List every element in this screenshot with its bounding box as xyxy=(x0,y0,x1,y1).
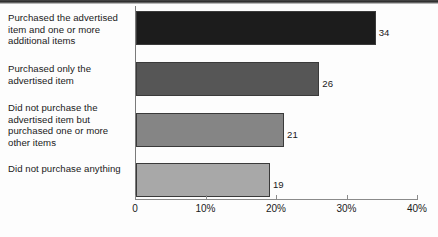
category-label: Purchased the advertised item and one or… xyxy=(8,12,132,47)
x-axis-tick xyxy=(276,195,277,200)
bar xyxy=(136,113,284,147)
bar xyxy=(136,11,376,45)
plot-area: 34 26 21 19 010%20%30%40% xyxy=(135,6,425,200)
x-axis-tick xyxy=(347,195,348,200)
bar-value-label: 26 xyxy=(322,78,333,89)
bar-value-label: 19 xyxy=(273,179,284,190)
bar-value-label: 21 xyxy=(287,129,298,140)
x-axis-tick xyxy=(206,195,207,200)
x-axis-tick-label: 30% xyxy=(336,203,356,214)
category-label: Did not purchase anything xyxy=(8,163,132,175)
x-axis-tick-label: 20% xyxy=(266,203,286,214)
x-axis-tick-label: 40% xyxy=(407,203,427,214)
category-label: Did not purchase the advertised item but… xyxy=(8,102,132,148)
bar xyxy=(136,163,270,197)
category-label-column: Purchased the advertised item and one or… xyxy=(0,4,133,202)
x-axis-tick xyxy=(417,195,418,200)
x-axis-tick xyxy=(135,195,136,200)
bar xyxy=(136,62,319,96)
x-axis-tick-label: 10% xyxy=(195,203,215,214)
horizontal-bar-chart: Purchased the advertised item and one or… xyxy=(0,0,438,237)
x-axis-tick-label: 0 xyxy=(132,203,138,214)
category-label: Purchased only the advertised item xyxy=(8,63,132,86)
bar-value-label: 34 xyxy=(379,27,390,38)
